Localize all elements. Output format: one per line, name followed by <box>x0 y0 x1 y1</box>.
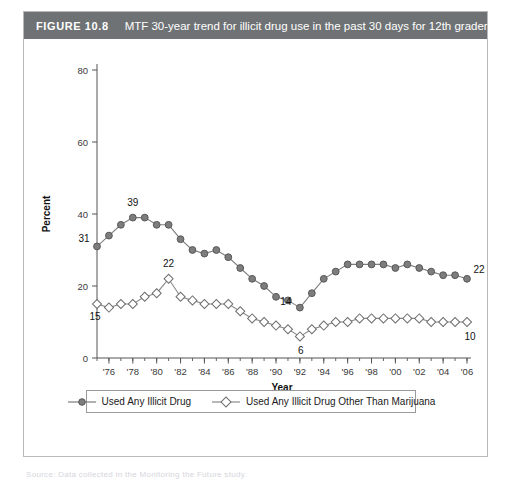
svg-text:'78: '78 <box>127 366 139 377</box>
svg-text:'04: '04 <box>437 366 449 377</box>
svg-text:'06: '06 <box>461 366 473 377</box>
figure-number-label: FIGURE 10.8 <box>36 20 109 32</box>
figure-screenshot: FIGURE 10.8 MTF 30-year trend for illici… <box>0 0 511 480</box>
svg-text:'98: '98 <box>365 366 377 377</box>
figure-panel: FIGURE 10.8 MTF 30-year trend for illici… <box>23 11 488 457</box>
svg-text:'94: '94 <box>318 366 330 377</box>
svg-text:10: 10 <box>464 331 476 342</box>
svg-text:60: 60 <box>77 137 88 148</box>
legend-marker-filled-circle-icon <box>67 396 97 408</box>
svg-text:80: 80 <box>77 65 88 76</box>
svg-text:'84: '84 <box>198 366 210 377</box>
figure-caption-text: MTF 30-year trend for illicit drug use i… <box>125 20 497 32</box>
svg-text:0: 0 <box>83 353 88 364</box>
legend-label-illicit-drug: Used Any Illicit Drug <box>102 397 191 407</box>
chart-legend: Used Any Illicit Drug Used Any Illicit D… <box>86 390 416 413</box>
svg-text:Percent: Percent <box>41 195 52 232</box>
svg-text:39: 39 <box>127 197 139 208</box>
svg-text:'86: '86 <box>222 366 234 377</box>
svg-text:'88: '88 <box>246 366 258 377</box>
figure-header-bar: FIGURE 10.8 MTF 30-year trend for illici… <box>24 12 487 39</box>
svg-text:14: 14 <box>280 296 292 307</box>
svg-text:'90: '90 <box>270 366 282 377</box>
source-note-stub: Source: Data collected in the Monitoring… <box>26 470 326 479</box>
legend-marker-open-diamond-icon <box>211 396 241 408</box>
svg-text:31: 31 <box>78 233 90 244</box>
svg-text:15: 15 <box>89 311 101 322</box>
svg-text:'76: '76 <box>103 366 115 377</box>
svg-text:20: 20 <box>77 281 88 292</box>
svg-text:'92: '92 <box>294 366 306 377</box>
svg-text:22: 22 <box>473 264 485 275</box>
svg-text:'82: '82 <box>174 366 186 377</box>
svg-text:'02: '02 <box>413 366 425 377</box>
svg-text:'96: '96 <box>341 366 353 377</box>
legend-label-other-than-marijuana: Used Any Illicit Drug Other Than Marijua… <box>246 397 435 407</box>
svg-text:'00: '00 <box>389 366 401 377</box>
svg-text:22: 22 <box>163 258 175 269</box>
svg-text:'80: '80 <box>150 366 162 377</box>
svg-text:6: 6 <box>298 345 304 356</box>
svg-text:40: 40 <box>77 209 88 220</box>
legend-entry-other-than-marijuana: Used Any Illicit Drug Other Than Marijua… <box>211 396 435 408</box>
legend-entry-illicit-drug: Used Any Illicit Drug <box>67 396 191 408</box>
